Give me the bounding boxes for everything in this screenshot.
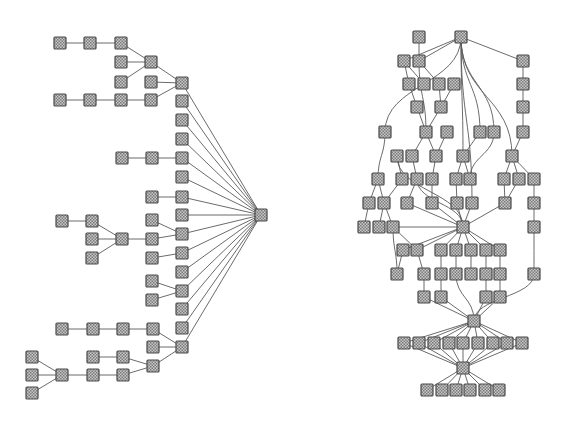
graph-node — [117, 351, 129, 363]
graph-node — [430, 150, 442, 162]
graph-node — [387, 221, 399, 233]
graph-node — [499, 197, 511, 209]
graph-node — [517, 101, 529, 113]
graph-edge — [461, 37, 523, 61]
graph-node — [84, 94, 96, 106]
graph-node — [411, 101, 423, 113]
graph-node — [480, 291, 492, 303]
graph-node — [513, 173, 525, 185]
graph-edge — [424, 297, 474, 321]
graph-node — [464, 384, 476, 396]
graph-node — [457, 221, 469, 233]
graph-node — [56, 215, 68, 227]
graph-node — [436, 384, 448, 396]
graph-edge — [182, 215, 261, 272]
graph-node — [426, 173, 438, 185]
graph-node — [464, 173, 476, 185]
graph-node — [372, 173, 384, 185]
graph-node — [494, 244, 506, 256]
graph-node — [494, 291, 506, 303]
graph-node — [147, 323, 159, 335]
graph-edge — [182, 215, 261, 347]
graph-node — [398, 337, 410, 349]
graph-node — [465, 268, 477, 280]
graph-edge — [397, 156, 463, 227]
graph-node — [176, 322, 188, 334]
graph-node — [398, 55, 410, 67]
graph-node — [84, 37, 96, 49]
graph-node — [494, 268, 506, 280]
graph-node — [145, 94, 157, 106]
graph-edge — [182, 215, 261, 309]
graph-node — [517, 78, 529, 90]
graph-node — [115, 37, 127, 49]
graph-node — [146, 294, 158, 306]
graph-node — [435, 268, 447, 280]
graph-node — [403, 78, 415, 90]
graph-node — [455, 31, 467, 43]
graph-node — [433, 78, 445, 90]
graph-node — [487, 337, 499, 349]
graph-node — [176, 247, 188, 259]
graph-node — [146, 191, 158, 203]
graph-node — [413, 55, 425, 67]
graph-edge — [182, 215, 261, 234]
graph-diagram-canvas — [0, 0, 564, 423]
graph-node — [488, 126, 500, 138]
graph-node — [450, 173, 462, 185]
graph-node — [411, 173, 423, 185]
graph-node — [176, 191, 188, 203]
graph-node — [528, 268, 540, 280]
graph-node — [480, 244, 492, 256]
graph-node — [86, 233, 98, 245]
graph-node — [474, 126, 486, 138]
graph-node — [176, 152, 188, 164]
graph-node — [426, 197, 438, 209]
graph-node — [176, 285, 188, 297]
right-dag-graph — [358, 31, 540, 396]
graph-node — [443, 337, 455, 349]
graph-node — [480, 268, 492, 280]
graph-node — [528, 173, 540, 185]
graph-node — [468, 315, 480, 327]
graph-node — [56, 323, 68, 335]
graph-edge — [182, 101, 261, 215]
graph-node — [413, 337, 425, 349]
graph-node — [441, 126, 453, 138]
graph-node — [391, 268, 403, 280]
graph-node — [146, 152, 158, 164]
graph-node — [26, 387, 38, 399]
graph-node — [146, 233, 158, 245]
graph-node — [115, 56, 127, 68]
graph-node — [498, 173, 510, 185]
graph-node — [146, 275, 158, 287]
graph-edge — [182, 139, 261, 215]
graph-node — [116, 152, 128, 164]
graph-node — [451, 197, 463, 209]
graph-node — [87, 369, 99, 381]
graph-node — [448, 78, 460, 90]
graph-node — [26, 351, 38, 363]
graph-node — [379, 126, 391, 138]
graph-node — [457, 362, 469, 374]
graph-node — [421, 384, 433, 396]
graph-edge — [470, 132, 494, 179]
graph-node — [413, 31, 425, 43]
graph-edge — [182, 120, 261, 215]
graph-node — [176, 171, 188, 183]
graph-node — [466, 197, 478, 209]
graph-node — [87, 323, 99, 335]
graph-node — [457, 337, 469, 349]
graph-node — [472, 337, 484, 349]
graph-node — [176, 303, 188, 315]
graph-node — [56, 369, 68, 381]
graph-node — [147, 360, 159, 372]
graph-node — [378, 197, 390, 209]
graph-node — [401, 197, 413, 209]
graph-node — [450, 268, 462, 280]
graph-node — [406, 150, 418, 162]
graph-node — [117, 369, 129, 381]
graph-node — [479, 384, 491, 396]
graph-node — [428, 337, 440, 349]
graph-node — [146, 214, 158, 226]
